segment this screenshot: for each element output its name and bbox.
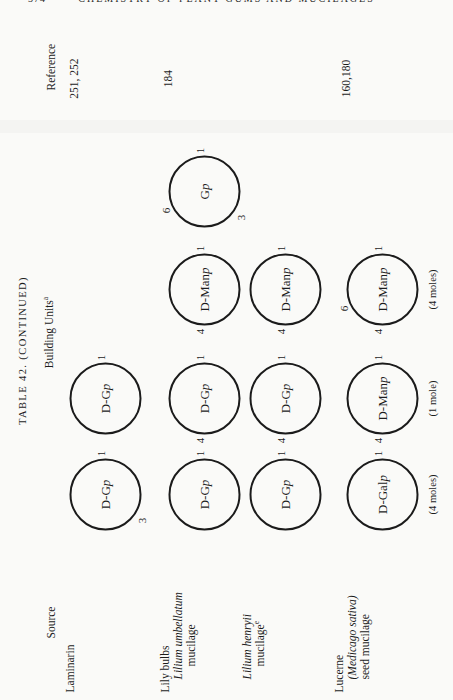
source-line: mucilagee — [253, 614, 266, 693]
linkage-number: 1 — [371, 450, 383, 456]
source-line: Lilium henryii — [240, 614, 253, 693]
footnote-marker: e — [251, 621, 260, 624]
source-line: seed mucilage — [358, 595, 371, 692]
pyranose-p: p — [196, 383, 211, 390]
source-entry: Lilium henryiimucilagee — [240, 614, 266, 693]
linkage-number: 1 — [193, 147, 205, 153]
building-units-footnote-marker: a — [40, 296, 49, 299]
source-line: (Medicago sativa) — [345, 595, 358, 692]
pyranose-p: p — [97, 479, 112, 486]
linkage-number: 1 — [193, 354, 205, 360]
unit-label: Gp — [196, 183, 212, 199]
linkage-number: 1 — [274, 354, 286, 360]
unit-label: D-Manp — [196, 267, 212, 311]
linkage-number: 1 — [274, 245, 286, 251]
source-line: Lilium umbellatum — [171, 592, 184, 692]
pyranose-p: p — [196, 267, 211, 274]
pyranose-p: p — [277, 383, 292, 390]
book-page: 374 CHEMISTRY OF PLANT GUMS AND MUCILAGE… — [0, 0, 453, 700]
source-entry: Laminarin — [63, 644, 76, 692]
source-line: Laminarin — [63, 644, 76, 692]
linkage-number: 4 — [371, 328, 383, 334]
source-line: mucilage — [184, 592, 197, 692]
building-units-label: Building Units — [42, 300, 54, 368]
linkage-number: 4 — [274, 437, 286, 443]
reference-value: 184 — [161, 69, 173, 86]
linkage-number: 4 — [193, 437, 205, 443]
pyranose-p: p — [97, 383, 112, 390]
linkage-number: 6 — [337, 305, 349, 311]
linkage-number: 6 — [159, 207, 171, 213]
linkage-number: 4 — [274, 328, 286, 334]
linkage-number: 3 — [234, 214, 246, 220]
source-column-header: Source — [44, 606, 56, 638]
linkage-number: 1 — [371, 354, 383, 360]
source-entry: Lily bulbsLilium umbellatummucilage — [158, 592, 197, 692]
unit-label: D-Gp — [277, 479, 293, 509]
source-line: Lily bulbs — [158, 592, 171, 692]
linkage-number: 1 — [94, 450, 106, 456]
pyranose-p: p — [196, 183, 211, 190]
unit-label: D-Manp — [374, 267, 390, 311]
rotated-table-layer: TABLE 42. (CONTINUED) Building Unitsa So… — [0, 0, 453, 700]
unit-label: D-Gp — [277, 383, 293, 413]
linkage-number: 4 — [371, 437, 383, 443]
building-units-column-header: Building Unitsa — [42, 296, 54, 367]
unit-label: D-Gp — [196, 383, 212, 413]
pyranose-p: p — [374, 267, 389, 274]
linkage-number: 1 — [94, 354, 106, 360]
linkage-number: 1 — [193, 245, 205, 251]
unit-label: D-Manp — [277, 267, 293, 311]
pyranose-p: p — [196, 479, 211, 486]
linkage-number: 4 — [193, 328, 205, 334]
pyranose-p: p — [374, 376, 389, 383]
mole-count-label: (4 moles) — [426, 474, 437, 514]
unit-label: D-Gp — [196, 479, 212, 509]
unit-label: D-Galp — [374, 475, 390, 514]
linkage-number: 1 — [274, 450, 286, 456]
mole-count-label: (4 moles) — [426, 269, 437, 309]
reference-value: 251, 252 — [67, 58, 79, 98]
linkage-number: 1 — [371, 245, 383, 251]
linkage-number: 3 — [135, 517, 147, 523]
pyranose-p: p — [277, 267, 292, 274]
source-line: Lucerne — [332, 595, 345, 692]
reference-value: 160,180 — [339, 59, 351, 96]
mole-count-label: (1 mole) — [426, 380, 437, 416]
reference-column-header: Reference — [44, 43, 56, 90]
unit-label: D-Manp — [374, 376, 390, 420]
linkage-number: 1 — [193, 450, 205, 456]
pyranose-p: p — [374, 475, 389, 482]
table-title: TABLE 42. (CONTINUED) — [16, 0, 27, 700]
pyranose-p: p — [277, 479, 292, 486]
source-entry: Lucerne(Medicago sativa)seed mucilage — [332, 595, 371, 692]
unit-label: D-Gp — [97, 479, 113, 509]
unit-label: D-Gp — [97, 383, 113, 413]
